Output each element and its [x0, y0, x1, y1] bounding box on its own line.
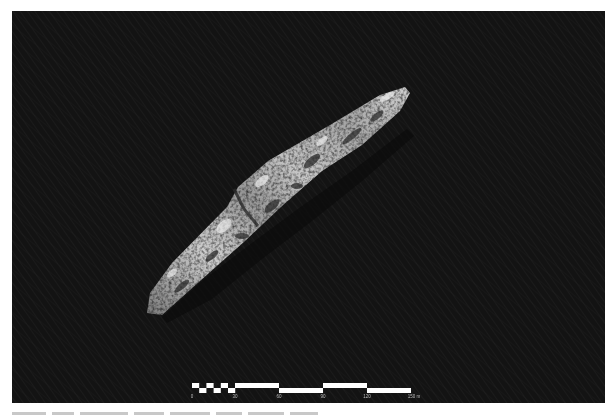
sonar-canvas	[12, 11, 605, 403]
sonar-image	[12, 11, 605, 403]
figure-caption	[12, 409, 605, 417]
